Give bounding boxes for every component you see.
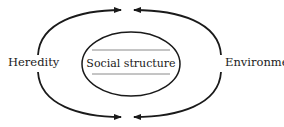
arrow-heredity-bottom xyxy=(38,72,121,117)
diagram-canvas: Heredity Social structure Environment xyxy=(0,0,284,127)
arrow-heredity-top xyxy=(38,10,121,55)
environment-label: Environment xyxy=(225,57,284,69)
arrow-environment-top xyxy=(134,10,221,55)
